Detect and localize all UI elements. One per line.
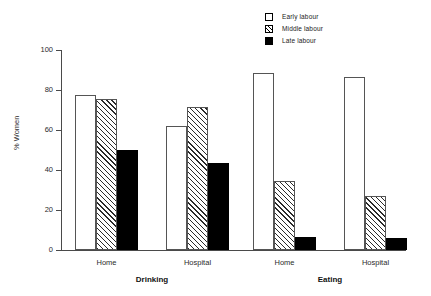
legend-label-middle-labour: Middle labour xyxy=(282,26,323,33)
y-axis-tick-label: 20 xyxy=(45,206,53,214)
bar-early-eating-hospital xyxy=(344,77,365,250)
bar-middle-drinking-hospital xyxy=(187,107,208,250)
bar-early-drinking-home xyxy=(75,95,96,250)
filled-square-icon xyxy=(265,37,273,45)
y-axis-tick-label: 0 xyxy=(49,246,53,254)
x-axis-panel-label: Drinking xyxy=(136,276,168,284)
y-axis-tick: 100 xyxy=(56,50,61,51)
legend-label-late-labour: Late labour xyxy=(282,38,316,45)
x-axis-group-label: Home xyxy=(274,259,294,267)
y-axis-tick-label: 40 xyxy=(45,166,53,174)
y-axis-tick-label: 100 xyxy=(40,46,53,54)
y-axis-tick: 80 xyxy=(56,90,61,91)
bar-middle-drinking-home xyxy=(96,99,117,250)
hatched-square-icon xyxy=(265,25,273,33)
y-axis-tick: 40 xyxy=(56,170,61,171)
x-axis-group-label: Hospital xyxy=(184,259,211,267)
y-axis-title: % Women xyxy=(13,116,21,150)
y-axis-tick: 20 xyxy=(56,210,61,211)
bar-late-drinking-home xyxy=(117,150,138,250)
bar-late-eating-hospital xyxy=(386,238,407,250)
y-axis-tick: 0 xyxy=(56,250,61,251)
x-axis-group-label: Hospital xyxy=(362,259,389,267)
x-axis-panel-label: Eating xyxy=(318,276,342,284)
open-square-icon xyxy=(265,13,273,21)
bar-late-drinking-hospital xyxy=(208,163,229,250)
bar-middle-eating-home xyxy=(274,181,295,250)
y-axis-tick-label: 80 xyxy=(45,86,53,94)
y-axis-spine xyxy=(61,50,62,251)
chart-figure: Early labour Middle labour Late labour %… xyxy=(0,0,431,296)
legend-item-middle-labour: Middle labour xyxy=(265,23,415,35)
chart-legend: Early labour Middle labour Late labour xyxy=(265,11,415,47)
bar-early-eating-home xyxy=(253,73,274,250)
legend-item-early-labour: Early labour xyxy=(265,11,415,23)
bar-middle-eating-hospital xyxy=(365,196,386,250)
legend-item-late-labour: Late labour xyxy=(265,35,415,47)
plot-area: 020406080100 HomeHospitalHomeHospital Dr… xyxy=(61,50,405,250)
legend-label-early-labour: Early labour xyxy=(282,14,318,21)
y-axis-tick-label: 60 xyxy=(45,126,53,134)
x-axis-group-label: Home xyxy=(96,259,116,267)
x-axis-spine xyxy=(61,250,406,251)
bar-early-drinking-hospital xyxy=(166,126,187,250)
y-axis-tick: 60 xyxy=(56,130,61,131)
bar-late-eating-home xyxy=(295,237,316,250)
